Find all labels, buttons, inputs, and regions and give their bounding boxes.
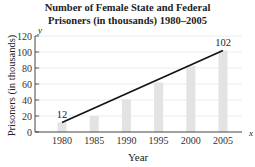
y-tick-label: 120 bbox=[17, 31, 32, 42]
x-tick-label: 1980 bbox=[52, 135, 72, 146]
bar-2000 bbox=[186, 66, 195, 132]
y-tick-label: 40 bbox=[22, 95, 32, 106]
x-tick-label: 1985 bbox=[84, 135, 104, 146]
data-label: 102 bbox=[215, 37, 231, 48]
x-tick-label: 2005 bbox=[213, 135, 233, 146]
bar-1990 bbox=[122, 99, 131, 132]
x-tick-label: 1995 bbox=[149, 135, 169, 146]
y-tick-label: 100 bbox=[17, 47, 32, 58]
bar-1995 bbox=[154, 82, 163, 132]
bar-1985 bbox=[90, 116, 99, 132]
x-axis-label: Year bbox=[128, 151, 148, 163]
y-tick-label: 20 bbox=[22, 111, 32, 122]
bar-1980 bbox=[58, 122, 67, 132]
data-label: 12 bbox=[57, 109, 68, 120]
chart-plot-area: 0204060801001201980198519901995200020051… bbox=[0, 0, 255, 167]
x-tick-label: 2000 bbox=[181, 135, 201, 146]
y-tick-label: 60 bbox=[22, 79, 32, 90]
y-tick-label: 0 bbox=[27, 127, 32, 138]
y-tick-label: 80 bbox=[22, 63, 32, 74]
y-axis-label: Prisoners (in thousands) bbox=[6, 31, 17, 141]
x-tick-label: 1990 bbox=[116, 135, 136, 146]
trend-line bbox=[62, 50, 223, 122]
bar-2005 bbox=[219, 50, 228, 132]
